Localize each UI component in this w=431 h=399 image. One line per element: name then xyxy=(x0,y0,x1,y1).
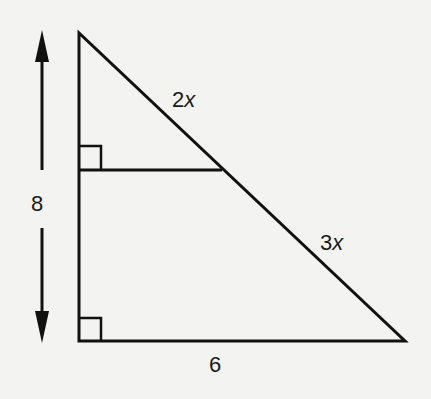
right-angle-marker-lower xyxy=(79,318,101,341)
variable-x: x xyxy=(332,230,343,255)
upper-hypotenuse-coef: 2 xyxy=(172,87,184,112)
right-angle-marker-upper xyxy=(79,146,101,170)
height-label: 8 xyxy=(31,193,43,215)
arrow-up-icon xyxy=(35,30,49,62)
arrow-down-icon xyxy=(35,311,49,343)
base-label: 6 xyxy=(209,354,221,376)
lower-hypotenuse-coef: 3 xyxy=(320,230,332,255)
large-right-triangle xyxy=(79,33,405,341)
upper-hypotenuse-label: 2x xyxy=(172,89,195,111)
variable-x: x xyxy=(184,87,195,112)
lower-hypotenuse-label: 3x xyxy=(320,232,343,254)
similar-triangles-diagram xyxy=(0,0,431,399)
